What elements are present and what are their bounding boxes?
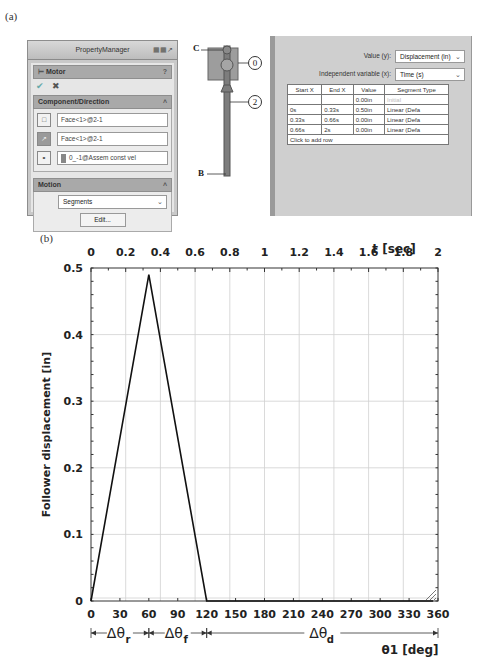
x-axis-tick-label: 300 — [369, 608, 392, 621]
motor-feature-header: ⊢ Motor ? — [33, 65, 172, 79]
direction-icon[interactable]: ↗ — [37, 132, 51, 146]
independent-variable-select[interactable]: Time (s)⌄ — [395, 68, 465, 81]
cell[interactable]: 0.66s — [322, 115, 353, 125]
arrow-head — [207, 631, 212, 636]
edit-button[interactable]: Edit... — [80, 213, 126, 227]
segments-table: Start X End X Value Segment Type 0.00in … — [287, 84, 449, 145]
displacement-chart: 00.20.40.60.811.21.41.61.8200.10.20.30.4… — [0, 240, 481, 662]
cell[interactable] — [288, 95, 322, 105]
y-axis-tick-label: 0 — [75, 595, 83, 608]
section-title: Motion — [38, 181, 61, 188]
arrow-head — [202, 631, 207, 636]
panel-toolbar-icons[interactable]: ▦▦↗ — [153, 41, 173, 59]
ok-check-icon[interactable]: ✔ — [36, 81, 44, 91]
top-axis-tick-label: 0.6 — [185, 246, 205, 259]
top-axis-label: t [sec] — [372, 242, 415, 256]
x-axis-tick-label: 150 — [224, 608, 247, 621]
top-axis-tick-label: 0.2 — [116, 246, 136, 259]
cell[interactable]: 0.00in — [353, 115, 384, 125]
feature-name: Motor — [46, 68, 65, 75]
collapse-icon[interactable]: ˄ — [163, 179, 167, 191]
figure-label-a: (a) — [5, 10, 17, 22]
component-direction-header[interactable]: Component/Direction ˄ — [33, 95, 172, 109]
section-title: Component/Direction — [38, 98, 109, 105]
add-row[interactable]: Click to add row — [288, 135, 449, 145]
motion-type-select[interactable]: Segments ⌄ — [58, 195, 167, 209]
x-axis-tick-label: 30 — [112, 608, 128, 621]
interval-label: Δθ — [107, 625, 125, 641]
y-axis-tick-label: 0.5 — [64, 262, 84, 275]
x-axis-tick-label: 90 — [170, 608, 186, 621]
reference-field[interactable]: 0_-1@Assem const vel — [57, 151, 168, 165]
reference-icon[interactable]: ⚬ — [37, 151, 51, 165]
color-swatch — [61, 154, 66, 163]
face-icon[interactable]: □ — [37, 113, 51, 127]
x-axis-tick-label: 360 — [427, 608, 450, 621]
arrow-head — [149, 631, 154, 636]
chevron-down-icon: ⌄ — [455, 69, 461, 80]
motor-icon: ⊢ — [38, 68, 44, 75]
y-axis-tick-label: 0.2 — [64, 462, 84, 475]
column-header: Start X — [288, 85, 322, 95]
cell[interactable]: Initial — [384, 95, 448, 105]
cell[interactable]: 0.50in — [353, 105, 384, 115]
interval-label: Δθ — [309, 625, 327, 641]
cell[interactable]: 0.33s — [322, 105, 353, 115]
cell[interactable]: Linear (Defa — [384, 105, 448, 115]
interval-annotations: ΔθrΔθfΔθd — [91, 625, 438, 645]
independent-selected: Time (s) — [400, 71, 424, 78]
cell[interactable]: Linear (Defa — [384, 115, 448, 125]
top-axis-tick-label: 2 — [434, 246, 442, 259]
interval-label-subscript: f — [184, 634, 189, 645]
cell[interactable] — [322, 95, 353, 105]
direction-face-field[interactable]: Face<1>@2-1 — [57, 132, 168, 146]
help-icon[interactable]: ? — [163, 66, 167, 78]
part-label-2: 2 — [248, 95, 262, 109]
segments-panel: Value (y): Displacement (in)⌄ Independen… — [270, 36, 472, 216]
top-axis-tick-label: 1.4 — [324, 246, 344, 259]
x-axis-tick-label: 270 — [340, 608, 363, 621]
table-row[interactable]: 0s 0.33s 0.50in Linear (Defa — [288, 105, 449, 115]
interval-label-subscript: d — [327, 634, 334, 645]
arrow-head — [91, 631, 96, 636]
chevron-down-icon: ⌄ — [455, 51, 461, 62]
property-manager-panel: PropertyManager ▦▦↗ ⊢ Motor ? ✔ ✖ Compon… — [27, 40, 178, 216]
cell[interactable]: 0s — [288, 105, 322, 115]
y-axis-tick-label: 0.4 — [64, 329, 84, 342]
component-face-field[interactable]: Face<1>@2-1 — [57, 113, 168, 127]
reference-value: 0_-1@Assem const vel — [69, 154, 136, 161]
x-axis-tick-label: 60 — [141, 608, 157, 621]
x-axis-tick-label: 210 — [282, 608, 305, 621]
x-axis-label: θ1 [deg] — [381, 643, 438, 657]
value-label: Value (y): — [295, 52, 391, 59]
pin-joint — [221, 59, 233, 71]
add-row-cell[interactable]: Click to add row — [288, 135, 449, 145]
top-axis-tick-label: 0.8 — [220, 246, 240, 259]
interval-label: Δθ — [165, 625, 183, 641]
cell[interactable]: 0.33s — [288, 115, 322, 125]
top-axis-tick-label: 1.2 — [289, 246, 309, 259]
column-header: Segment Type — [384, 85, 448, 95]
top-axis-tick-label: 0 — [87, 246, 95, 259]
x-axis-tick-label: 180 — [253, 608, 276, 621]
x-axis-tick-label: 0 — [87, 608, 95, 621]
arrow-head — [433, 631, 438, 636]
point-label-c: C — [193, 43, 200, 53]
table-row[interactable]: 0.66s 2s 0.00in Linear (Defa — [288, 125, 449, 135]
point-label-b: B — [198, 168, 204, 178]
value-select[interactable]: Displacement (in)⌄ — [395, 50, 465, 63]
pin-c — [223, 46, 231, 54]
x-axis-tick-label: 240 — [311, 608, 334, 621]
cell[interactable]: 0.00in — [353, 125, 384, 135]
cell[interactable]: 0.00in — [353, 95, 384, 105]
cell[interactable]: 2s — [322, 125, 353, 135]
table-row[interactable]: 0.33s 0.66s 0.00in Linear (Defa — [288, 115, 449, 125]
table-row[interactable]: 0.00in Initial — [288, 95, 449, 105]
collapse-icon[interactable]: ˄ — [163, 96, 167, 108]
grid — [91, 268, 438, 601]
interval-label-subscript: r — [125, 634, 130, 645]
motion-header[interactable]: Motion ˄ — [33, 178, 172, 192]
cell[interactable]: Linear (Defa — [384, 125, 448, 135]
cancel-x-icon[interactable]: ✖ — [52, 81, 60, 91]
cell[interactable]: 0.66s — [288, 125, 322, 135]
